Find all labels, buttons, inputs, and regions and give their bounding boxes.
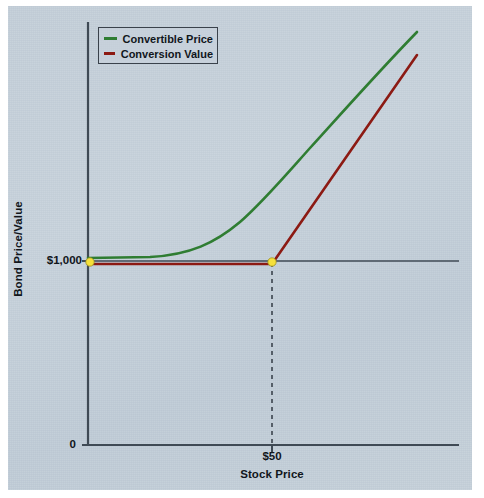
chart-page: Convertible Price Conversion Value Bond … xyxy=(0,0,484,498)
legend-swatch-conversion-value xyxy=(104,52,115,55)
legend-label-conversion-value: Conversion Value xyxy=(121,48,213,60)
x-axis-title: Stock Price xyxy=(212,468,332,480)
conversion-point-marker xyxy=(268,258,276,266)
legend-item-convertible-price: Convertible Price xyxy=(103,31,213,46)
legend-swatch-convertible-price xyxy=(104,37,117,40)
chart-legend: Convertible Price Conversion Value xyxy=(98,27,218,64)
y-axis-title: Bond Price/Value xyxy=(12,189,24,309)
chart-plot-area xyxy=(0,0,484,498)
x-tick-label-50: $50 xyxy=(242,450,302,462)
series-line-convertible-price xyxy=(88,32,417,258)
legend-item-conversion-value: Conversion Value xyxy=(103,46,213,61)
legend-label-convertible-price: Convertible Price xyxy=(123,33,213,45)
floor-origin-point-marker xyxy=(86,258,94,266)
y-tick-label-1000: $1,000 xyxy=(10,254,82,266)
y-tick-label-zero: 0 xyxy=(46,438,76,450)
